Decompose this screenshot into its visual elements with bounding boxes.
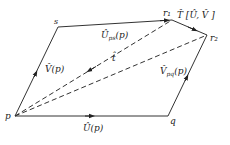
label-T: T̂ [Û, V̂ ] <box>177 9 215 20</box>
label-t: t̂ <box>112 51 116 63</box>
arrow-T <box>188 27 195 30</box>
label-U: Û(p) <box>83 122 104 133</box>
point-r2: r₂ <box>210 33 218 43</box>
point-q: q <box>170 116 176 126</box>
label-Vpq: V̂pq(p) <box>160 65 187 78</box>
point-s: s <box>54 17 58 26</box>
diagram-canvas: p q s r₁ r₂ Û(p) V̂(p) Ûps(p) V̂pq(p) t̂… <box>0 0 230 145</box>
point-r1: r₁ <box>163 8 171 18</box>
label-V: V̂(p) <box>45 63 65 74</box>
arrow-t <box>89 67 96 71</box>
edge-s-r1 <box>58 20 172 27</box>
label-Ups: Ûps(p) <box>101 29 129 42</box>
point-p: p <box>5 111 11 121</box>
